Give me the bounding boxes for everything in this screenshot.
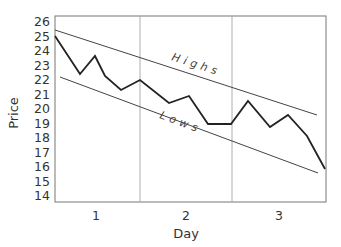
- y-tick: 21: [34, 87, 50, 102]
- x-axis-ticks: 1 2 3: [92, 208, 283, 223]
- y-tick: 23: [34, 58, 50, 73]
- y-tick: 25: [34, 29, 50, 44]
- price-chart: 26 25 24 23 22 21 20 19 18 17 16 15 14 1…: [0, 0, 341, 247]
- y-tick: 26: [34, 14, 50, 29]
- y-tick: 15: [34, 174, 50, 189]
- y-axis-ticks: 26 25 24 23 22 21 20 19 18 17 16 15 14: [34, 14, 50, 203]
- y-tick: 17: [34, 145, 50, 160]
- plot-area: [55, 16, 326, 202]
- y-tick: 16: [34, 159, 50, 174]
- x-tick: 2: [182, 208, 190, 223]
- y-tick: 22: [34, 72, 50, 87]
- y-tick: 18: [34, 130, 50, 145]
- y-axis-title: Price: [6, 97, 21, 129]
- y-tick: 19: [34, 116, 50, 131]
- y-tick: 20: [34, 101, 50, 116]
- y-tick: 24: [34, 43, 50, 58]
- x-tick: 3: [275, 208, 283, 223]
- y-tick: 14: [34, 188, 50, 203]
- x-tick: 1: [92, 208, 100, 223]
- x-axis-title: Day: [173, 226, 199, 241]
